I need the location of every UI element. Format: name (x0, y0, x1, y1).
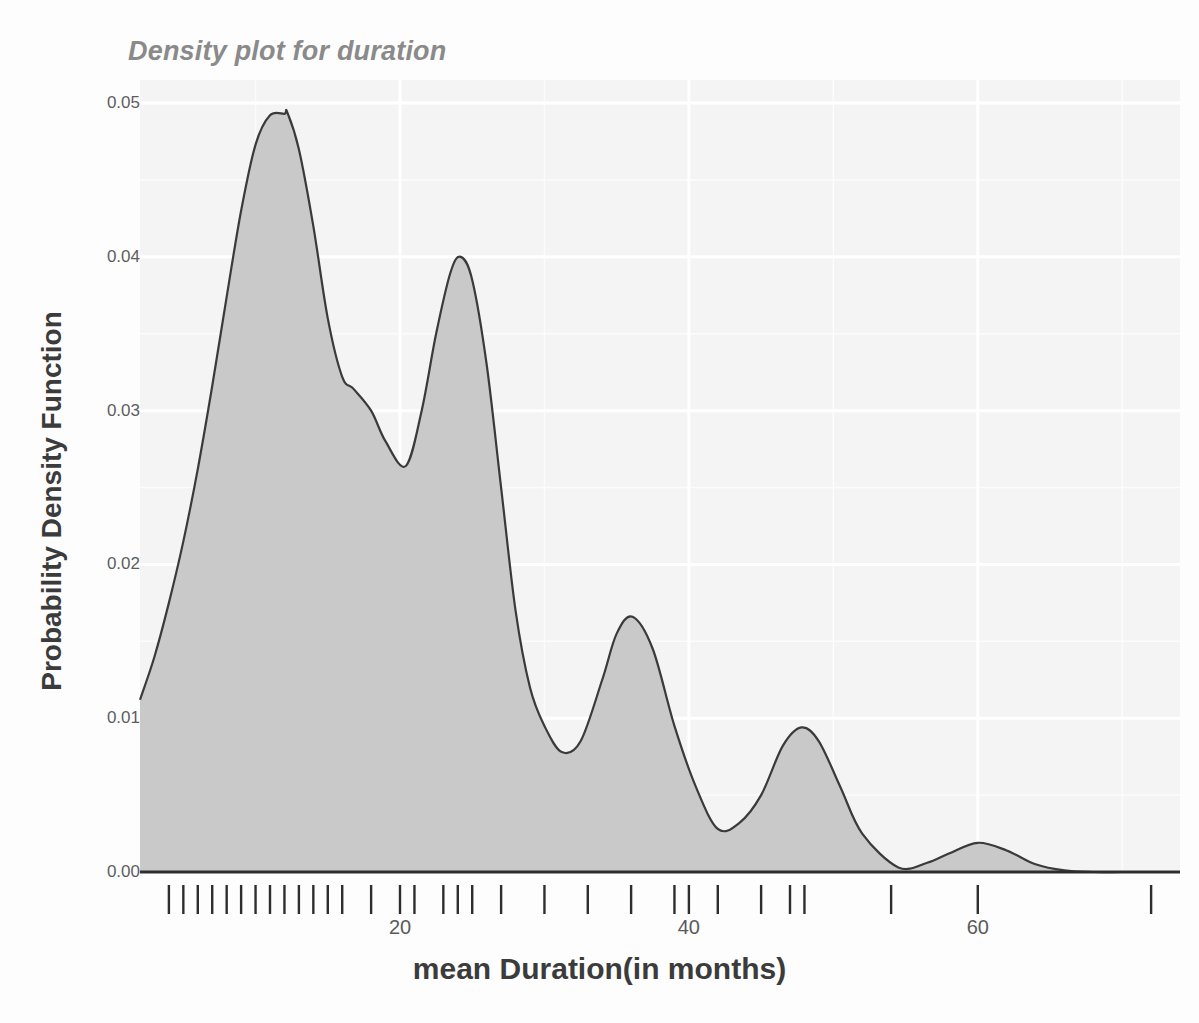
rug-marks (169, 885, 1151, 914)
density-plot-figure: Density plot for duration Probability De… (0, 0, 1199, 1023)
plot-area (0, 0, 1199, 1023)
